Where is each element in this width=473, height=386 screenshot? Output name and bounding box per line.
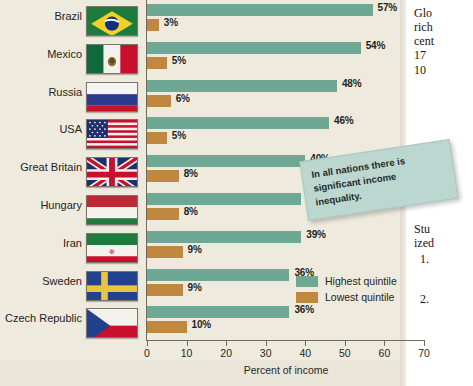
flag-usa-icon [86,119,138,149]
bar-value-lowest-quintile: 5% [172,130,186,141]
bar-value-lowest-quintile: 5% [172,55,186,66]
side-text-line: ized [414,236,434,250]
x-tick-label: 30 [260,347,272,359]
country-row-hungary: Hungary [0,191,146,229]
bar-highest-quintile [147,117,329,129]
bar-group: 39%9% [147,229,424,267]
bar-group: 36%10% [147,304,424,342]
legend-item-highest-quintile: Highest quintile [296,274,397,288]
country-row-czech-republic: Czech Republic [0,304,146,342]
x-tick [384,341,385,346]
bar-lowest-quintile [147,321,187,333]
bar-value-lowest-quintile: 8% [184,168,198,179]
bar-highest-quintile [147,4,373,16]
bar-lowest-quintile [147,170,179,182]
x-tick-label: 70 [418,347,430,359]
bar-group: 48%6% [147,78,424,116]
bar-lowest-quintile [147,246,183,258]
x-tick [147,341,148,346]
x-tick [345,341,346,346]
country-label: Great Britain [20,161,82,173]
country-label: Russia [48,86,82,98]
country-row-mexico: Mexico [0,40,146,78]
country-label: Mexico [47,48,82,60]
side-text-line: 10 [414,63,434,77]
x-tick [187,341,188,346]
bar-highest-quintile [147,306,289,318]
side-text-line: rich [414,20,434,34]
x-tick [226,341,227,346]
flag-mexico-icon [86,44,138,74]
x-axis-line [146,340,425,341]
bar-highest-quintile [147,193,301,205]
bar-highest-quintile [147,80,337,92]
bar-lowest-quintile [147,284,183,296]
bar-highest-quintile [147,231,301,243]
bar-lowest-quintile [147,208,179,220]
legend-label-highest-quintile: Highest quintile [325,275,397,287]
bar-lowest-quintile [147,57,167,69]
bar-value-highest-quintile: 57% [378,2,397,13]
country-row-russia: Russia [0,78,146,116]
x-tick-label: 0 [144,347,150,359]
bar-lowest-quintile [147,95,171,107]
x-tick [266,341,267,346]
legend-swatch-lowest-quintile [296,292,318,303]
x-tick-label: 60 [379,347,391,359]
bar-highest-quintile [147,155,305,167]
country-label: USA [59,123,82,135]
bar-highest-quintile [147,42,361,54]
bar-lowest-quintile [147,19,159,31]
x-axis-title: Percent of income [244,364,329,376]
x-tick-label: 50 [339,347,351,359]
side-text-line: Glo [414,6,434,20]
country-row-usa: USA [0,115,146,153]
flag-iran-icon: Φ [86,233,138,263]
x-tick-label: 40 [299,347,311,359]
country-row-iran: Iran Φ [0,229,146,267]
bar-group: 57%3% [147,2,424,40]
x-tick-label: 20 [220,347,232,359]
country-label: Brazil [54,10,82,22]
bar-value-lowest-quintile: 3% [164,17,178,28]
bar-value-highest-quintile: 46% [334,115,353,126]
bar-lowest-quintile [147,132,167,144]
country-label: Sweden [42,275,82,287]
country-label: Iran [63,237,82,249]
bar-highest-quintile [147,269,289,281]
x-tick [424,341,425,346]
bar-value-highest-quintile: 39% [306,229,325,240]
bar-value-highest-quintile: 48% [342,78,361,89]
bar-value-highest-quintile: 54% [366,40,385,51]
flag-czech-republic-icon [86,308,138,338]
bar-group: 54%5% [147,40,424,78]
flag-sweden-icon [86,271,138,301]
country-row-sweden: Sweden [0,267,146,305]
chart-legend: Highest quintile Lowest quintile [296,274,397,306]
side-text-list: 1.2. [420,252,429,332]
country-row-great-britain: Great Britain [0,153,146,191]
flag-russia-icon [86,82,138,112]
side-text-list-marker: 2. [420,292,429,306]
side-text-line: cent [414,34,434,48]
bar-value-lowest-quintile: 9% [188,244,202,255]
country-label: Czech Republic [5,312,82,324]
side-text-line: 17 [414,48,434,62]
legend-swatch-highest-quintile [296,276,318,287]
side-text-top: Glorichcent17 10 [414,6,434,77]
legend-label-lowest-quintile: Lowest quintile [325,291,394,303]
flag-brazil-icon [86,6,138,36]
bar-group: 46%5% [147,115,424,153]
bar-value-lowest-quintile: 10% [192,319,211,330]
flag-great-britain-icon [86,157,138,187]
country-label: Hungary [40,199,82,211]
side-text-line: Stu [414,222,434,236]
bar-value-lowest-quintile: 8% [184,206,198,217]
flag-hungary-icon [86,195,138,225]
legend-item-lowest-quintile: Lowest quintile [296,290,397,304]
side-text-bottom: Stuized [414,222,434,250]
bar-value-lowest-quintile: 6% [176,93,190,104]
country-row-brazil: Brazil [0,2,146,40]
bar-value-highest-quintile: 36% [294,304,313,315]
side-text-list-marker: 1. [420,252,429,266]
